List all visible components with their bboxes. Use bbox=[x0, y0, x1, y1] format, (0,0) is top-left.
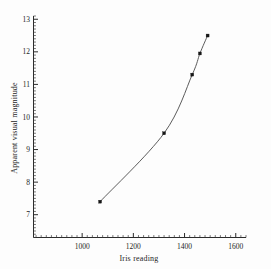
data-point-marker bbox=[198, 52, 201, 55]
y-tick-label: 9 bbox=[26, 145, 30, 154]
data-point-marker bbox=[163, 132, 166, 135]
y-tick-label: 11 bbox=[23, 80, 30, 89]
data-point-marker bbox=[99, 200, 102, 203]
y-tick-label: 8 bbox=[26, 178, 30, 187]
x-axis-title: Iris reading bbox=[119, 254, 158, 263]
x-tick-label: 1200 bbox=[126, 242, 141, 251]
data-markers bbox=[99, 34, 210, 203]
y-axis-title: Apparent visual magnitude bbox=[10, 82, 19, 174]
data-curve bbox=[100, 36, 208, 202]
chart-svg: 78910111213 1000120014001600 Iris readin… bbox=[0, 0, 271, 269]
y-tick-label: 7 bbox=[26, 210, 30, 219]
x-tick-label: 1400 bbox=[177, 242, 192, 251]
data-point-marker bbox=[206, 34, 209, 37]
x-tick-label: 1600 bbox=[228, 242, 243, 251]
chart-figure: 78910111213 1000120014001600 Iris readin… bbox=[0, 0, 271, 269]
x-tick-label: 1000 bbox=[75, 242, 90, 251]
x-tick-labels: 1000120014001600 bbox=[75, 242, 244, 251]
y-tick-label: 12 bbox=[23, 47, 31, 56]
plot-area: 78910111213 1000120014001600 Iris readin… bbox=[0, 0, 271, 269]
data-point-marker bbox=[191, 73, 194, 76]
y-tick-label: 13 bbox=[23, 15, 31, 24]
y-tick-labels: 78910111213 bbox=[23, 15, 31, 219]
y-tick-label: 10 bbox=[23, 113, 31, 122]
